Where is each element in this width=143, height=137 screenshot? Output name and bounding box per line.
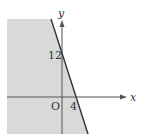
- x-intercept-label: 4: [70, 100, 77, 113]
- inequality-diagram: y x O 12 4: [0, 0, 143, 137]
- origin-label: O: [51, 100, 60, 113]
- y-intercept-label: 12: [48, 49, 62, 62]
- x-axis-label: x: [130, 91, 137, 104]
- y-axis-arrow-icon: [60, 20, 65, 27]
- coordinate-plane: y x O 12 4: [0, 0, 143, 137]
- x-axis-arrow-icon: [120, 95, 127, 100]
- shaded-region: [7, 19, 88, 134]
- y-axis-label: y: [57, 7, 65, 20]
